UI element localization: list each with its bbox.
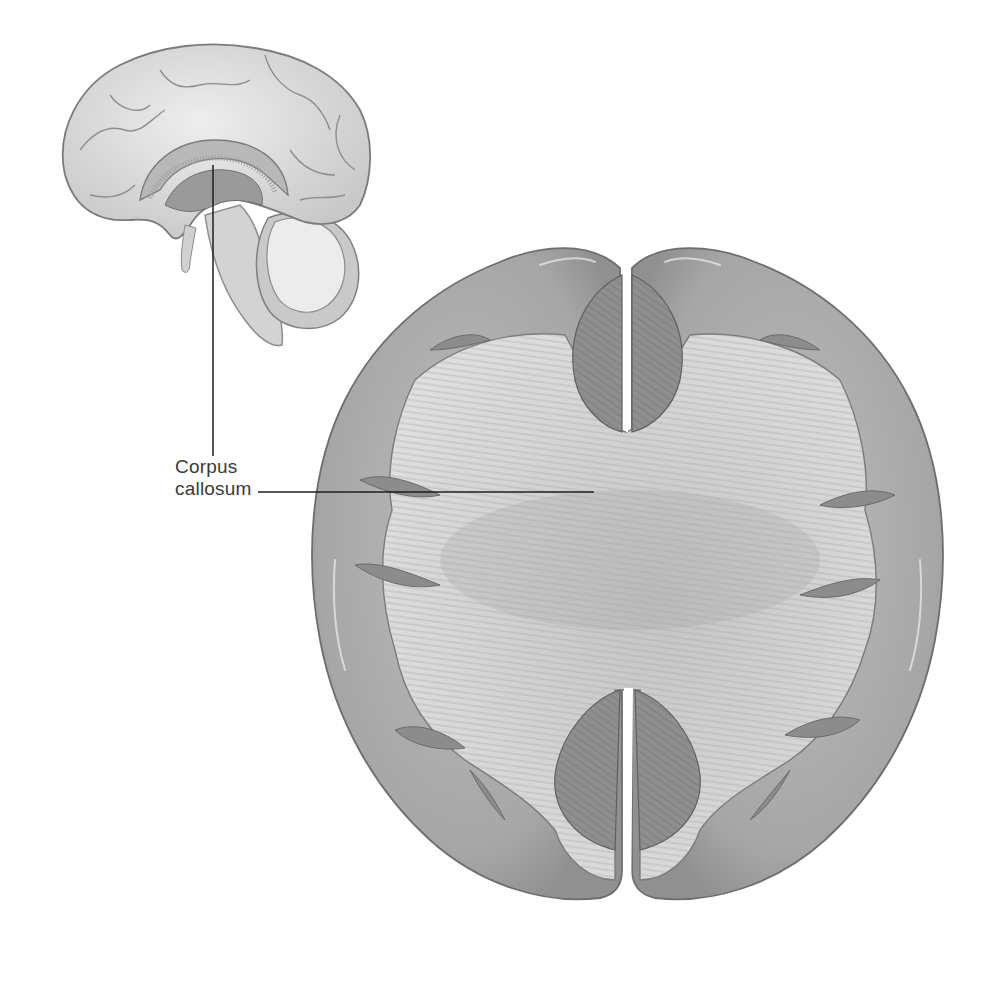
brain-diagram xyxy=(0,0,1001,1001)
label-line-1: Corpus xyxy=(175,456,252,478)
longitudinal-fissure-anterior xyxy=(624,262,630,432)
pituitary xyxy=(181,225,196,272)
corpus-callosum-label: Corpus callosum xyxy=(175,456,252,500)
label-line-2: callosum xyxy=(175,478,252,500)
superior-brain xyxy=(312,248,943,905)
corpus-callosum-body xyxy=(440,490,820,630)
cerebellum xyxy=(256,212,358,328)
sagittal-brain xyxy=(63,44,370,345)
